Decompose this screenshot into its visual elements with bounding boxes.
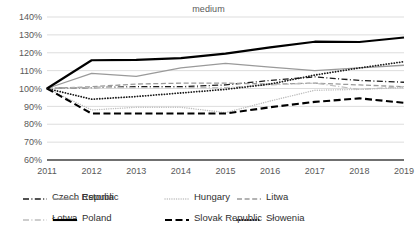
x-axis-tick-label: 2017 <box>305 166 325 176</box>
legend-swatch-litwa <box>236 193 262 205</box>
y-axis-tick-label: 110% <box>20 66 42 76</box>
chart-plot-area: 60%70%80%90%100%110%120%130%140% 2011201… <box>0 0 417 186</box>
legend-label: Litwa <box>266 191 288 202</box>
chart-container: medium 60%70%80%90%100%110%120%130%140% … <box>0 0 417 232</box>
legend-label: Słowenia <box>266 212 305 223</box>
y-axis-tick-label: 130% <box>19 30 42 40</box>
legend-line-sample-icon <box>236 191 262 203</box>
legend-item-czech-republic[interactable]: Czech Republic <box>22 186 52 207</box>
y-axis-tick-label: 100% <box>19 84 42 94</box>
legend-item-litwa[interactable]: Litwa <box>236 186 331 207</box>
legend-row: Czech RepublicEstoniaHungaryLitwa <box>0 186 417 207</box>
x-axis-tick-label: 2012 <box>82 166 102 176</box>
legend-label: Hungary <box>194 191 230 202</box>
legend-line-sample-icon <box>236 212 262 224</box>
y-axis-tick-labels: 60%70%80%90%100%110%120%130%140% <box>19 12 42 165</box>
legend-line-sample-icon <box>52 212 78 224</box>
y-axis-tick-label: 60% <box>24 155 42 165</box>
legend-row: ŁotwaPolandSlovak RepublicSłowenia <box>0 207 417 228</box>
x-axis-tick-label: 2011 <box>37 166 56 176</box>
y-axis-tick-label: 80% <box>24 119 42 129</box>
series-line-slovak-republic <box>47 89 404 114</box>
legend-label: Estonia <box>82 191 114 202</box>
x-axis-tick-label: 2016 <box>260 166 280 176</box>
legend-item-hungary[interactable]: Hungary <box>164 186 236 207</box>
y-axis-tick-label: 90% <box>24 102 42 112</box>
x-axis-tick-label: 2018 <box>349 166 369 176</box>
legend-item-slovak-republic[interactable]: Slovak Republic <box>164 207 236 228</box>
series-line-słowenia <box>47 62 404 100</box>
x-axis-tick-labels: 201120122013201420152016201720182019 <box>37 166 414 176</box>
legend-swatch-słowenia <box>236 214 262 226</box>
legend-item-łotwa[interactable]: Łotwa <box>22 207 52 228</box>
y-axis-tick-label: 140% <box>19 12 42 22</box>
series-line-hungary <box>47 88 404 113</box>
legend-line-sample-icon <box>52 191 78 203</box>
y-axis-tick-label: 70% <box>24 137 42 147</box>
x-axis-tick-label: 2019 <box>394 166 414 176</box>
legend-swatch-estonia <box>52 193 78 205</box>
chart-legend: Czech RepublicEstoniaHungaryLitwa ŁotwaP… <box>0 186 417 232</box>
legend-label: Poland <box>82 212 112 223</box>
data-series-group <box>47 38 404 114</box>
x-axis-tick-label: 2015 <box>215 166 235 176</box>
legend-swatch-poland <box>52 214 78 226</box>
legend-item-estonia[interactable]: Estonia <box>52 186 164 207</box>
legend-swatch-łotwa <box>22 214 48 226</box>
legend-item-poland[interactable]: Poland <box>52 207 164 228</box>
y-axis-tick-label: 120% <box>19 48 42 58</box>
legend-swatch-czech-republic <box>22 193 48 205</box>
legend-swatch-slovak-republic <box>164 214 190 226</box>
x-axis-tick-label: 2013 <box>126 166 146 176</box>
legend-line-sample-icon <box>164 212 190 224</box>
x-axis-tick-label: 2014 <box>171 166 191 176</box>
legend-line-sample-icon <box>22 191 48 203</box>
legend-item-słowenia[interactable]: Słowenia <box>236 207 331 228</box>
legend-line-sample-icon <box>22 212 48 224</box>
legend-swatch-hungary <box>164 193 190 205</box>
legend-line-sample-icon <box>164 191 190 203</box>
